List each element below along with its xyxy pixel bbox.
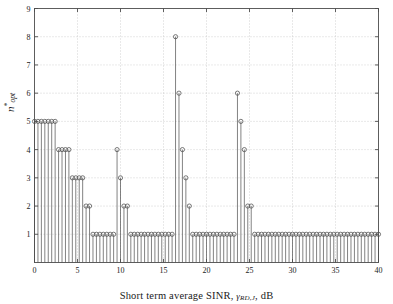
y-axis-label-prime: * [3, 103, 12, 107]
y-tick-label: 2 [27, 202, 31, 211]
y-tick-label: 4 [27, 146, 31, 155]
y-tick-label: 9 [27, 5, 31, 14]
x-axis-label-prefix: Short term average SINR, [120, 290, 237, 301]
figure-container: 0510152025303540 123456789 Short term av… [0, 0, 393, 304]
x-tick-label: 20 [203, 266, 211, 275]
y-axis-label-symbol: n [4, 107, 16, 113]
x-axis-label-suffix: , dB [255, 290, 273, 301]
x-tick-label: 15 [160, 266, 168, 275]
x-tick-label: 35 [332, 266, 340, 275]
stem-plot-chart: 0510152025303540 123456789 [0, 0, 393, 304]
y-tick-label: 7 [27, 61, 31, 70]
y-axis-label: n*opt [3, 93, 17, 112]
y-tick-label: 6 [27, 89, 31, 98]
x-tick-label: 40 [375, 266, 383, 275]
x-axis-label: Short term average SINR, γRD,J, dB [0, 290, 393, 302]
y-tick-label: 1 [27, 230, 31, 239]
x-tick-label: 30 [289, 266, 297, 275]
x-tick-label: 0 [33, 266, 37, 275]
x-tick-label: 5 [76, 266, 80, 275]
y-tick-label: 8 [27, 33, 31, 42]
y-axis-label-subscript: opt [8, 93, 17, 103]
x-tick-label: 25 [246, 266, 254, 275]
y-tick-labels: 123456789 [27, 5, 31, 240]
y-tick-label: 5 [27, 117, 31, 126]
y-tick-label: 3 [27, 174, 31, 183]
x-axis-label-subscript: RD,J [240, 294, 255, 302]
x-tick-label: 10 [117, 266, 125, 275]
